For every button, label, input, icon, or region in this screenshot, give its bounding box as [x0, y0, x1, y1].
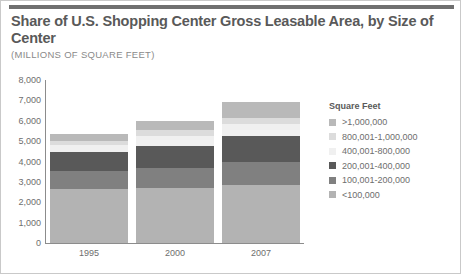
- y-tick-label: 1,000: [18, 218, 41, 228]
- legend-swatch-icon: [329, 191, 336, 198]
- bar-segment: [136, 146, 214, 167]
- bar-segment: [50, 152, 128, 170]
- legend-item[interactable]: 400,001-800,000: [329, 146, 455, 156]
- legend-swatch-icon: [329, 148, 336, 155]
- bar-segment: [222, 124, 300, 136]
- legend-label: >1,000,000: [342, 117, 387, 127]
- y-axis-ticks: 8,0007,0006,0005,0004,0003,0002,0001,000…: [1, 80, 41, 244]
- bar-segment: [50, 134, 128, 141]
- bar-segment: [50, 171, 128, 189]
- bar-slot: [132, 80, 218, 243]
- legend-item[interactable]: 100,001-200,000: [329, 175, 455, 185]
- legend-item[interactable]: 200,001-400,000: [329, 161, 455, 171]
- bar-segment: [222, 136, 300, 161]
- legend-item[interactable]: >1,000,000: [329, 117, 455, 127]
- legend-items: >1,000,000800,001-1,000,000400,001-800,0…: [329, 117, 455, 200]
- y-tick-label: 7,000: [18, 95, 41, 105]
- chart-subtitle: (MILLIONS OF SQUARE FEET): [11, 49, 155, 60]
- y-tick-label: 0: [36, 238, 41, 248]
- bar-slot: [46, 80, 132, 243]
- y-tick-label: 5,000: [18, 136, 41, 146]
- x-tick-label: 2000: [132, 248, 218, 258]
- legend-label: 800,001-1,000,000: [342, 132, 418, 142]
- bar-segment: [222, 102, 300, 117]
- legend-swatch-icon: [329, 133, 336, 140]
- bar-segment: [222, 162, 300, 185]
- bar-segment: [136, 136, 214, 146]
- bar-segment: [136, 188, 214, 243]
- legend-item[interactable]: 800,001-1,000,000: [329, 132, 455, 142]
- y-tick-label: 8,000: [18, 75, 41, 85]
- bar-slot: [218, 80, 304, 243]
- bar-segment: [136, 121, 214, 130]
- x-tick-label: 2007: [218, 248, 304, 258]
- stacked-bar[interactable]: [222, 102, 300, 243]
- x-tick-label: 1995: [46, 248, 132, 258]
- bar-segment: [50, 189, 128, 243]
- legend-label: 100,001-200,000: [342, 175, 410, 185]
- page-title: Share of U.S. Shopping Center Gross Leas…: [11, 13, 451, 47]
- stacked-bar[interactable]: [50, 134, 128, 243]
- bar-segment: [222, 185, 300, 243]
- top-rule: [9, 5, 454, 9]
- chart-legend: Square Feet >1,000,000800,001-1,000,0004…: [329, 101, 455, 204]
- chart-figure: Share of U.S. Shopping Center Gross Leas…: [0, 0, 461, 274]
- y-tick-label: 4,000: [18, 157, 41, 167]
- legend-label: <100,000: [342, 190, 380, 200]
- legend-swatch-icon: [329, 177, 336, 184]
- legend-label: 200,001-400,000: [342, 161, 410, 171]
- y-tick-label: 2,000: [18, 197, 41, 207]
- x-axis-line: [45, 243, 304, 244]
- bar-segment: [50, 145, 128, 152]
- bar-segment: [136, 168, 214, 188]
- bars-container: [46, 80, 304, 243]
- y-tick-label: 3,000: [18, 177, 41, 187]
- legend-swatch-icon: [329, 119, 336, 126]
- legend-title: Square Feet: [329, 101, 455, 111]
- legend-label: 400,001-800,000: [342, 146, 410, 156]
- legend-swatch-icon: [329, 162, 336, 169]
- stacked-bar[interactable]: [136, 121, 214, 243]
- y-tick-label: 6,000: [18, 116, 41, 126]
- x-axis-labels: 199520002007: [46, 248, 304, 258]
- legend-item[interactable]: <100,000: [329, 190, 455, 200]
